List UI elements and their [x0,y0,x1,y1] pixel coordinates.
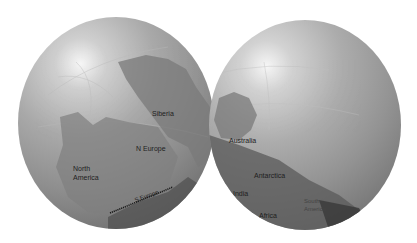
australia-landmass [214,92,257,140]
right-globe: Australia Antarctica India Africa South … [209,20,401,230]
label-africa: Africa [259,212,277,220]
label-south-america-line2: America [304,205,326,213]
label-india: India [233,190,248,198]
label-n-europe: N Europe [136,145,166,153]
left-globe-map [18,17,214,229]
label-north-america-line1: North [73,165,90,173]
label-south-america-line1: South [304,197,320,205]
label-siberia: Siberia [152,110,174,118]
label-antarctica: Antarctica [254,172,285,180]
left-globe: Siberia N Europe North America S Europe [18,17,214,229]
label-north-america-line2: America [73,174,99,182]
label-australia: Australia [229,137,256,145]
